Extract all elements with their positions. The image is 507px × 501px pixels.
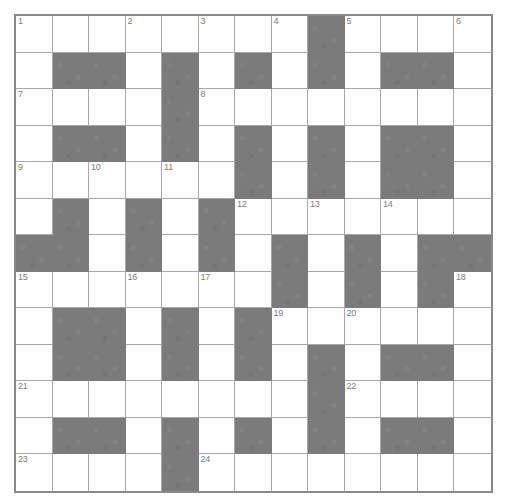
letter-cell[interactable] xyxy=(308,89,345,126)
letter-cell[interactable] xyxy=(89,381,126,418)
letter-cell[interactable] xyxy=(162,381,199,418)
letter-cell[interactable] xyxy=(126,418,163,455)
letter-cell[interactable] xyxy=(162,235,199,272)
letter-cell[interactable]: 23 xyxy=(16,454,53,491)
letter-cell[interactable]: 16 xyxy=(126,272,163,309)
letter-cell[interactable] xyxy=(16,308,53,345)
letter-cell[interactable] xyxy=(308,235,345,272)
letter-cell[interactable] xyxy=(162,272,199,309)
letter-cell[interactable] xyxy=(199,345,236,382)
letter-cell[interactable] xyxy=(272,454,309,491)
letter-cell[interactable] xyxy=(16,418,53,455)
letter-cell[interactable] xyxy=(53,381,90,418)
letter-cell[interactable]: 19 xyxy=(272,308,309,345)
letter-cell[interactable] xyxy=(16,126,53,163)
letter-cell[interactable]: 20 xyxy=(345,308,382,345)
letter-cell[interactable] xyxy=(199,418,236,455)
letter-cell[interactable] xyxy=(162,16,199,53)
letter-cell[interactable] xyxy=(199,126,236,163)
letter-cell[interactable] xyxy=(345,162,382,199)
letter-cell[interactable] xyxy=(418,199,455,236)
letter-cell[interactable] xyxy=(308,308,345,345)
letter-cell[interactable] xyxy=(199,381,236,418)
letter-cell[interactable]: 5 xyxy=(345,16,382,53)
letter-cell[interactable] xyxy=(162,199,199,236)
letter-cell[interactable] xyxy=(272,126,309,163)
letter-cell[interactable] xyxy=(126,53,163,90)
letter-cell[interactable] xyxy=(126,454,163,491)
letter-cell[interactable] xyxy=(454,53,491,90)
letter-cell[interactable] xyxy=(235,89,272,126)
letter-cell[interactable] xyxy=(454,126,491,163)
letter-cell[interactable] xyxy=(418,89,455,126)
letter-cell[interactable]: 8 xyxy=(199,89,236,126)
letter-cell[interactable] xyxy=(418,16,455,53)
letter-cell[interactable]: 24 xyxy=(199,454,236,491)
letter-cell[interactable] xyxy=(53,162,90,199)
letter-cell[interactable] xyxy=(89,235,126,272)
letter-cell[interactable]: 14 xyxy=(381,199,418,236)
letter-cell[interactable] xyxy=(89,89,126,126)
letter-cell[interactable] xyxy=(454,199,491,236)
letter-cell[interactable] xyxy=(89,199,126,236)
letter-cell[interactable] xyxy=(126,345,163,382)
letter-cell[interactable]: 11 xyxy=(162,162,199,199)
letter-cell[interactable]: 21 xyxy=(16,381,53,418)
letter-cell[interactable] xyxy=(381,272,418,309)
letter-cell[interactable] xyxy=(272,381,309,418)
letter-cell[interactable] xyxy=(381,16,418,53)
letter-cell[interactable] xyxy=(199,308,236,345)
letter-cell[interactable] xyxy=(89,272,126,309)
letter-cell[interactable] xyxy=(345,53,382,90)
letter-cell[interactable] xyxy=(89,16,126,53)
letter-cell[interactable] xyxy=(308,454,345,491)
letter-cell[interactable] xyxy=(16,199,53,236)
letter-cell[interactable]: 7 xyxy=(16,89,53,126)
letter-cell[interactable] xyxy=(272,89,309,126)
letter-cell[interactable] xyxy=(345,89,382,126)
letter-cell[interactable] xyxy=(454,308,491,345)
letter-cell[interactable]: 17 xyxy=(199,272,236,309)
letter-cell[interactable]: 13 xyxy=(308,199,345,236)
letter-cell[interactable] xyxy=(53,272,90,309)
letter-cell[interactable] xyxy=(272,199,309,236)
letter-cell[interactable]: 15 xyxy=(16,272,53,309)
letter-cell[interactable] xyxy=(381,308,418,345)
letter-cell[interactable]: 1 xyxy=(16,16,53,53)
letter-cell[interactable] xyxy=(381,235,418,272)
letter-cell[interactable]: 4 xyxy=(272,16,309,53)
letter-cell[interactable]: 2 xyxy=(126,16,163,53)
letter-cell[interactable] xyxy=(272,53,309,90)
letter-cell[interactable] xyxy=(199,162,236,199)
letter-cell[interactable] xyxy=(381,454,418,491)
letter-cell[interactable] xyxy=(53,454,90,491)
letter-cell[interactable] xyxy=(454,418,491,455)
letter-cell[interactable] xyxy=(53,16,90,53)
letter-cell[interactable] xyxy=(235,381,272,418)
letter-cell[interactable] xyxy=(454,381,491,418)
letter-cell[interactable]: 3 xyxy=(199,16,236,53)
letter-cell[interactable] xyxy=(418,454,455,491)
letter-cell[interactable] xyxy=(381,381,418,418)
letter-cell[interactable] xyxy=(235,272,272,309)
letter-cell[interactable] xyxy=(235,454,272,491)
letter-cell[interactable] xyxy=(89,454,126,491)
letter-cell[interactable] xyxy=(381,89,418,126)
letter-cell[interactable] xyxy=(418,381,455,418)
letter-cell[interactable] xyxy=(126,89,163,126)
letter-cell[interactable]: 9 xyxy=(16,162,53,199)
letter-cell[interactable]: 10 xyxy=(89,162,126,199)
letter-cell[interactable]: 12 xyxy=(235,199,272,236)
letter-cell[interactable] xyxy=(345,199,382,236)
letter-cell[interactable] xyxy=(126,162,163,199)
letter-cell[interactable] xyxy=(16,345,53,382)
letter-cell[interactable] xyxy=(454,454,491,491)
letter-cell[interactable] xyxy=(126,308,163,345)
letter-cell[interactable] xyxy=(345,345,382,382)
letter-cell[interactable] xyxy=(16,53,53,90)
letter-cell[interactable] xyxy=(235,235,272,272)
letter-cell[interactable] xyxy=(126,381,163,418)
letter-cell[interactable] xyxy=(53,89,90,126)
letter-cell[interactable] xyxy=(126,126,163,163)
letter-cell[interactable] xyxy=(235,16,272,53)
